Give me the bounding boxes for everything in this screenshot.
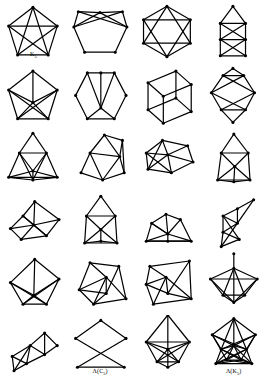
graph-cell-pentagram-lambda-c5: Λ(C5): [67, 315, 134, 378]
edge-group: [81, 135, 124, 180]
graph-edge: [9, 90, 49, 119]
graph-vertex: [150, 222, 153, 225]
graph-drawing-13: [0, 189, 67, 252]
graph-vertex: [31, 132, 34, 135]
graph-vertex: [86, 71, 89, 74]
graph-vertex: [220, 108, 223, 111]
graph-cell-triangle-with-pendant-triangle: [67, 189, 134, 252]
graph-edge: [146, 140, 162, 153]
graph-edge: [146, 223, 151, 241]
graph-edge: [143, 43, 166, 57]
graph-drawing-8: [200, 63, 267, 126]
graph-edge: [223, 68, 233, 75]
graph-vertex: [188, 42, 191, 45]
graph-cell-cube-graph-q3: [134, 63, 201, 126]
graph-edge: [148, 71, 176, 83]
edge-group: [10, 259, 59, 304]
graph-edge: [211, 279, 234, 302]
graph-cell-zigzag-double-crossing: [200, 189, 267, 252]
graph-vertex: [232, 67, 235, 70]
graph-cell-flattened-prism-sketch: [134, 126, 201, 189]
graph-vertex: [146, 168, 149, 171]
graph-vertex: [189, 83, 192, 86]
graph-vertex: [174, 70, 177, 73]
graph-vertex: [148, 265, 151, 268]
graph-vertex: [155, 360, 158, 363]
graph-vertex: [99, 71, 102, 74]
graph-edge: [90, 135, 104, 153]
graph-vertex: [99, 195, 102, 198]
graph-drawing-5: [0, 63, 67, 126]
graph-vertex: [161, 95, 164, 98]
graph-edge: [146, 234, 168, 241]
graph-vertex: [253, 91, 256, 94]
graph-vertex: [187, 259, 190, 262]
graph-vertex: [247, 151, 250, 154]
graph-vertex: [72, 25, 75, 28]
graph-vertex: [188, 18, 191, 21]
graph-vertex: [209, 277, 212, 280]
graph-edge: [162, 140, 167, 154]
graph-vertex: [166, 153, 169, 156]
graph-vertex: [256, 277, 259, 280]
graph-edge: [35, 259, 59, 279]
graph-vertex: [83, 51, 86, 54]
graph-vertex: [151, 303, 154, 306]
graph-vertex: [210, 91, 213, 94]
graph-edge: [114, 95, 126, 118]
graph-vertex: [232, 121, 235, 124]
graph-vertex: [45, 303, 48, 306]
graph-vertex: [117, 265, 120, 268]
graph-edge: [167, 220, 180, 234]
graph-vertex: [187, 340, 190, 343]
graph-drawing-18: [67, 252, 134, 315]
graph-vertex: [238, 238, 241, 241]
graph-vertex: [125, 25, 128, 28]
graph-edge: [148, 140, 162, 169]
graph-vertex: [124, 297, 127, 300]
graph-edge: [115, 216, 117, 243]
graph-vertex: [252, 198, 255, 201]
graph-vertex: [99, 319, 102, 322]
graph-edge: [18, 103, 33, 119]
graph-edge: [171, 162, 193, 173]
graph-drawing-6: [67, 63, 134, 126]
graph-vertex: [99, 228, 102, 231]
graph-cell-line-graph-lambda-k5: Λ(K5): [200, 315, 267, 378]
graph-vertex: [166, 366, 169, 369]
graph-edge: [21, 236, 46, 240]
graph-edge: [151, 214, 165, 223]
graph-edge: [162, 140, 187, 145]
graph-cell-skew-quadrilateral-pair: [67, 252, 134, 315]
graph-cell-pentagon-with-folded-base: [0, 252, 67, 315]
graph-vertex: [251, 362, 254, 365]
graph-drawing-10: [67, 126, 134, 189]
edge-group: [211, 254, 258, 303]
graph-edge: [33, 103, 48, 119]
graph-vertex: [144, 283, 147, 286]
edge-group: [146, 261, 191, 304]
graph-edge: [87, 108, 101, 119]
graph-cell-bowtie-triangle-chain: [0, 315, 67, 378]
graph-vertex: [211, 333, 214, 336]
graph-edge: [104, 135, 119, 157]
edge-group: [79, 263, 126, 304]
figure-caption: Λ(K5): [200, 368, 267, 377]
graph-edge: [248, 153, 250, 180]
graph-vertex: [86, 117, 89, 120]
graph-vertex: [113, 117, 116, 120]
graph-vertex: [189, 297, 192, 300]
graph-vertex: [233, 267, 236, 270]
graph-edge: [46, 153, 57, 177]
graph-vertex: [12, 369, 15, 372]
graph-vertex: [104, 276, 107, 279]
graph-vertex: [220, 151, 223, 154]
graph-vertex: [244, 108, 247, 111]
graph-edge: [30, 346, 44, 355]
graph-edge: [221, 153, 235, 167]
figure-caption: K5: [0, 51, 67, 60]
graph-vertex: [32, 294, 35, 297]
graph-vertex: [244, 38, 247, 41]
edge-group: [143, 6, 190, 56]
graph-edge: [75, 73, 87, 96]
